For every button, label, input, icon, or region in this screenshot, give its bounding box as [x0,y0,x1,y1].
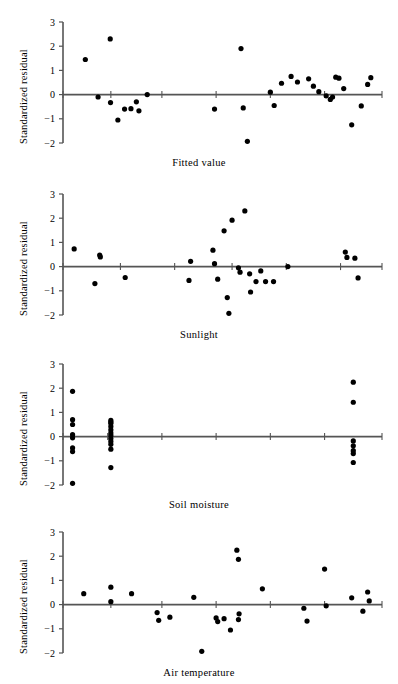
data-point [238,46,243,51]
y-tick-label: −2 [44,648,55,659]
data-point [260,586,265,591]
data-point [134,99,139,104]
data-point-group [70,380,356,486]
x-axis-label: Air temperature [0,667,398,678]
data-point [352,256,357,261]
panel-fitted-value: Standardized residual3210−1−2Fitted valu… [0,10,398,155]
data-point [108,442,113,447]
data-point [167,615,172,620]
y-tick-label: −2 [44,138,55,149]
y-tick-label: −1 [44,455,55,466]
data-point [191,595,196,600]
data-point [136,108,141,113]
data-point [108,419,113,424]
panel-air-temperature: Standardized residual3210−1−2Air tempera… [0,520,398,665]
scatter-plot-air-temperature: 3210−1−2 [0,520,398,665]
y-tick-label: 1 [50,237,55,248]
data-point [359,103,364,108]
data-point [83,57,88,62]
data-point [349,122,354,127]
data-point [108,36,113,41]
data-point [188,259,193,264]
data-point [247,271,252,276]
data-point [70,435,75,440]
y-tick-label: 3 [50,189,55,200]
data-point [108,599,113,604]
data-point [355,275,360,280]
data-point [199,649,204,654]
data-point [306,76,311,81]
data-point [272,103,277,108]
y-axis-label: Standardized residual [18,49,29,144]
data-point [360,609,365,614]
y-tick-label: 0 [50,261,55,272]
data-point [129,591,134,596]
panel-soil-moisture: Standardized residual3210−1−2Soil moistu… [0,352,398,497]
data-point [241,105,246,110]
data-point [145,92,150,97]
y-axis-label: Standardized residual [18,559,29,654]
data-point [186,278,191,283]
data-point [95,94,100,99]
data-point [242,208,247,213]
data-point [229,218,234,223]
y-tick-label: 0 [50,599,55,610]
data-point-group [72,208,361,316]
data-point [316,89,321,94]
data-point [288,74,293,79]
data-point [122,107,127,112]
x-axis-label: Sunlight [0,329,398,340]
data-point [367,598,372,603]
data-point [72,246,77,251]
data-point [336,76,341,81]
y-axis-label: Standardized residual [18,221,29,316]
data-point [123,275,128,280]
data-point [98,254,103,259]
data-point [258,268,263,273]
data-point [245,139,250,144]
data-point [351,400,356,405]
scatter-plot-soil-moisture: 3210−1−2 [0,352,398,497]
data-point [351,438,356,443]
data-point [70,417,75,422]
data-point [324,93,329,98]
data-point [70,422,75,427]
data-point [341,86,346,91]
y-tick-label: −1 [44,285,55,296]
data-point [271,279,276,284]
residual-plots-figure: Standardized residual3210−1−2Fitted valu… [0,0,398,684]
data-point [156,618,161,623]
data-point [215,277,220,282]
x-axis-label: Fitted value [0,157,398,168]
scatter-plot-fitted-value: 3210−1−2 [0,10,398,155]
data-point [330,94,335,99]
data-point [108,465,113,470]
data-point [221,616,226,621]
data-point [351,460,356,465]
data-point [70,481,75,486]
y-tick-label: 1 [50,65,55,76]
data-point [81,591,86,596]
x-axis-label: Soil moisture [0,499,398,510]
data-point [301,606,306,611]
data-point [236,557,241,562]
data-point [343,249,348,254]
data-point-group [83,36,374,144]
data-point [253,279,258,284]
y-tick-label: −2 [44,480,55,491]
y-tick-label: 2 [50,213,55,224]
scatter-plot-sunlight: 3210−1−2 [0,182,398,327]
y-tick-label: −1 [44,623,55,634]
y-tick-label: 3 [50,17,55,28]
data-point [351,451,356,456]
data-point [324,603,329,608]
data-point [228,627,233,632]
y-tick-label: 1 [50,407,55,418]
data-point [237,270,242,275]
data-point [263,279,268,284]
data-point [279,81,284,86]
data-point [322,566,327,571]
data-point [236,611,241,616]
data-point [351,443,356,448]
y-tick-label: 0 [50,89,55,100]
